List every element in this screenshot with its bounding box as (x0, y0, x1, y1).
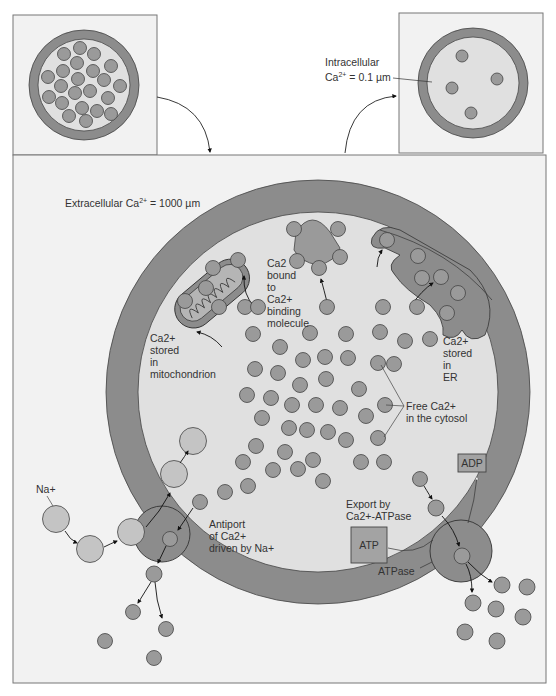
svg-text:Ca2+: Ca2+ (443, 335, 468, 347)
atp-label: ATP (359, 539, 379, 551)
svg-text:Free Ca2+: Free Ca2+ (406, 400, 456, 412)
svg-text:Ca2: Ca2 (267, 257, 286, 269)
sodium-label: Na+ (36, 483, 56, 495)
svg-text:mitochondrion: mitochondrion (150, 368, 216, 380)
adp-label: ADP (461, 457, 483, 469)
svg-text:of Ca2+: of Ca2+ (209, 530, 246, 542)
svg-text:stored: stored (150, 344, 179, 356)
top-left-panel (13, 15, 157, 155)
svg-text:Ca2+-ATPase: Ca2+-ATPase (346, 510, 412, 522)
svg-text:driven by Na+: driven by Na+ (209, 542, 274, 554)
main-panel: ATP ADP Extracellular Ca2+ = 1000 µm Ca2… (13, 155, 546, 683)
extracellular-label: Extracellular Ca2+ = 1000 µm (65, 197, 200, 209)
svg-text:in: in (443, 359, 451, 371)
intracellular-label: Intracellular (325, 56, 380, 68)
svg-text:in: in (150, 356, 158, 368)
calcium-regulation-diagram: Intracellular Ca2+ = 0.1 µm (0, 0, 556, 696)
svg-text:stored: stored (443, 347, 472, 359)
svg-text:in the cytosol: in the cytosol (406, 412, 467, 424)
arrow-to-main-panel (157, 97, 210, 152)
atpase-label: ATPase (378, 565, 415, 577)
svg-text:to: to (267, 281, 276, 293)
svg-text:molecule: molecule (267, 317, 309, 329)
svg-text:binding: binding (267, 305, 301, 317)
svg-text:Export by: Export by (346, 498, 391, 510)
svg-text:bound: bound (267, 269, 296, 281)
svg-text:ER: ER (443, 371, 458, 383)
svg-text:Ca2+: Ca2+ (267, 293, 292, 305)
intracellular-value-label: Ca2+ = 0.1 µm (325, 71, 391, 83)
arrow-to-top-right-panel (345, 96, 396, 153)
svg-text:Ca2+: Ca2+ (150, 332, 175, 344)
svg-text:Antiport: Antiport (209, 518, 245, 530)
top-right-panel: Intracellular Ca2+ = 0.1 µm (325, 13, 543, 153)
